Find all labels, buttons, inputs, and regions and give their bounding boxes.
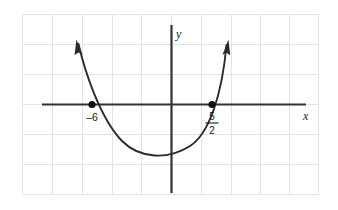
fraction-denominator: 2 bbox=[209, 125, 215, 136]
root-label-left: –6 bbox=[86, 111, 98, 123]
coordinate-plane-svg: –6 5 2 y x bbox=[0, 0, 338, 210]
graph-figure: –6 5 2 y x bbox=[0, 0, 338, 210]
root-point-right bbox=[208, 101, 215, 108]
x-axis-label: x bbox=[302, 109, 309, 123]
fraction-numerator: 5 bbox=[209, 111, 215, 122]
y-axis-label: y bbox=[175, 27, 182, 41]
root-point-left bbox=[88, 101, 95, 108]
